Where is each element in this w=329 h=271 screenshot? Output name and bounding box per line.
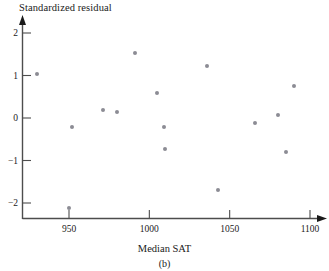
- data-point: [284, 150, 288, 154]
- y-axis-title: Standardized residual: [19, 2, 112, 13]
- data-point: [276, 113, 280, 117]
- data-point: [216, 188, 220, 192]
- data-point: [292, 84, 296, 88]
- y-tick-label: 0: [2, 113, 18, 123]
- y-tick-label: 2: [2, 28, 18, 38]
- y-tick-label: 1: [2, 71, 18, 81]
- data-point: [115, 110, 119, 114]
- x-tick-label: 1100: [292, 224, 328, 234]
- data-point: [163, 147, 167, 151]
- data-point: [101, 108, 105, 112]
- plot-area: 210−1−2 950100010501100 Standardized res…: [0, 0, 329, 271]
- data-point: [35, 72, 39, 76]
- x-tick-label: 1050: [212, 224, 248, 234]
- data-point: [253, 121, 257, 125]
- x-axis-title: Median SAT: [0, 243, 329, 254]
- x-tick-label: 1000: [131, 224, 167, 234]
- scatter-plot-figure: 210−1−2 950100010501100 Standardized res…: [0, 0, 329, 271]
- data-point: [155, 91, 159, 95]
- y-tick-label: −1: [2, 156, 18, 166]
- data-point: [67, 206, 71, 210]
- data-point: [162, 125, 166, 129]
- data-point: [70, 125, 74, 129]
- data-point: [133, 51, 137, 55]
- y-tick-label: −2: [2, 198, 18, 208]
- panel-caption: (b): [0, 258, 329, 269]
- data-point: [205, 64, 209, 68]
- x-tick-label: 950: [51, 224, 87, 234]
